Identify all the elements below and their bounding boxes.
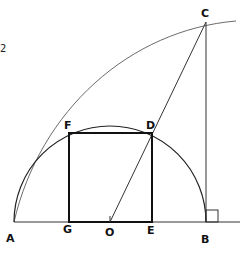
square-gedf <box>69 133 152 222</box>
label-b: B <box>201 233 209 246</box>
edge-artifact-text: 2 <box>0 43 6 54</box>
label-d: D <box>146 119 155 132</box>
segment-oc <box>110 22 206 222</box>
right-angle-marker <box>206 210 218 222</box>
label-e: E <box>147 224 155 237</box>
label-a: A <box>6 232 15 245</box>
label-c: C <box>201 7 209 20</box>
geometry-diagram: 2 A B C D E F G O <box>0 0 250 255</box>
label-o: O <box>105 226 114 239</box>
label-f: F <box>64 119 72 132</box>
label-g: G <box>63 223 72 236</box>
semicircle-ab <box>14 126 206 222</box>
